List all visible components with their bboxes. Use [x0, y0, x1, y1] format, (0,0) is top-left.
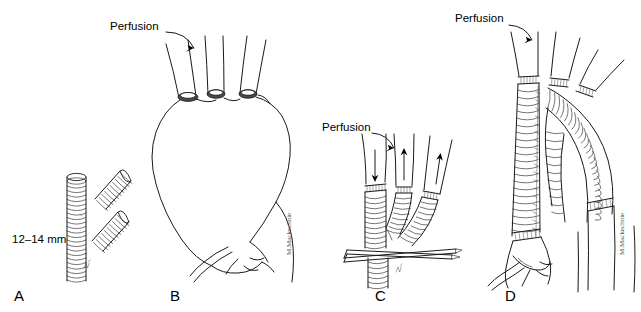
- svg-text:M.Mackechnie: M.Mackechnie: [618, 213, 626, 255]
- measurement-label-a: 12–14 mm: [12, 233, 66, 245]
- artist-signature-b: M.Mackechnie: [285, 213, 293, 255]
- panel-letter-a: A: [14, 287, 24, 304]
- perfusion-label-c: Perfusion: [322, 121, 371, 133]
- figure-container: 12–14 mm A: [0, 0, 641, 312]
- panel-letter-c: C: [375, 287, 386, 304]
- perfusion-label-b: Perfusion: [110, 20, 159, 32]
- perfusion-label-d: Perfusion: [455, 12, 504, 24]
- panel-letter-b: B: [170, 287, 180, 304]
- panel-letter-d: D: [505, 287, 516, 304]
- artist-signature-d: M.Mackechnie: [618, 213, 626, 255]
- figure-background: [0, 0, 641, 312]
- svg-text:M.Mackechnie: M.Mackechnie: [285, 213, 293, 255]
- surgical-illustration: 12–14 mm A: [0, 0, 641, 312]
